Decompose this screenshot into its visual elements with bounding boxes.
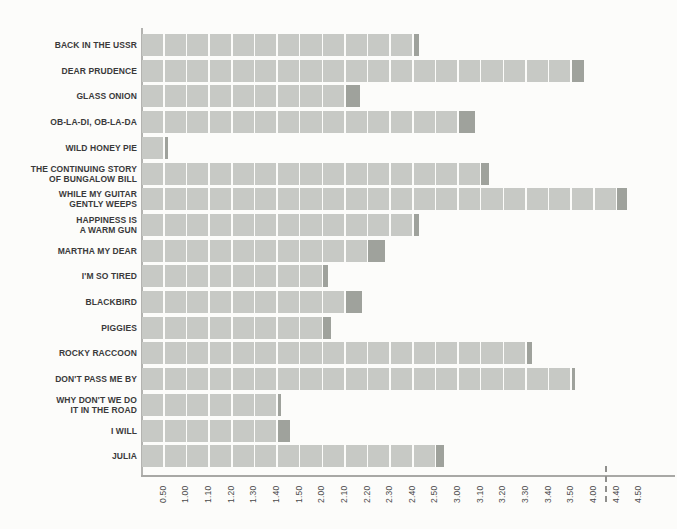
bar-block-10s xyxy=(255,60,276,82)
bar-block-10s xyxy=(346,342,367,364)
song-duration-bar xyxy=(142,445,444,467)
bar-block-10s xyxy=(527,60,548,82)
bar-block-10s xyxy=(300,214,321,236)
bar-block-10s xyxy=(210,163,231,185)
bar-block-10s xyxy=(368,214,389,236)
bar-block-10s xyxy=(391,60,412,82)
x-tick-label: 1.20 xyxy=(226,486,236,503)
song-label: I'M SO TIRED xyxy=(0,265,137,287)
song-duration-bar xyxy=(142,420,290,442)
bar-end-cap xyxy=(323,265,328,287)
bar-block-10s xyxy=(210,342,231,364)
bar-block-10s xyxy=(414,368,435,390)
bar-block-10s xyxy=(300,34,321,56)
bar-block-10s xyxy=(391,163,412,185)
song-duration-bar xyxy=(142,188,627,210)
bar-block-10s xyxy=(187,111,208,133)
bar-block-10s xyxy=(278,317,299,339)
bar-block-10s xyxy=(436,111,457,133)
bar-block-10s xyxy=(527,188,548,210)
x-tick-label: 2.20 xyxy=(362,486,372,503)
bar-block-10s xyxy=(210,368,231,390)
bar-block-10s xyxy=(278,60,299,82)
song-duration-bar xyxy=(142,240,385,262)
song-label-line: PIGGIES xyxy=(101,323,137,333)
bar-block-10s xyxy=(142,291,163,313)
bar-block-10s xyxy=(481,188,502,210)
bar-block-10s xyxy=(255,34,276,56)
bar-block-10s xyxy=(368,445,389,467)
song-label-line: THE CONTINUING STORY xyxy=(31,164,137,174)
bar-block-10s xyxy=(233,368,254,390)
bar-block-10s xyxy=(233,60,254,82)
x-tick-label: 1.50 xyxy=(294,486,304,503)
x-tick-label: 3.20 xyxy=(497,486,507,503)
bar-block-10s xyxy=(278,111,299,133)
bar-block-10s xyxy=(233,214,254,236)
bar-block-10s xyxy=(165,111,186,133)
bar-block-10s xyxy=(414,188,435,210)
song-label: HAPPINESS ISA WARM GUN xyxy=(0,214,137,236)
bar-end-cap xyxy=(617,188,627,210)
bar-end-cap xyxy=(414,214,419,236)
song-label: DEAR PRUDENCE xyxy=(0,60,137,82)
bar-block-10s xyxy=(255,368,276,390)
song-label-line: GLASS ONION xyxy=(76,91,137,101)
bar-block-10s xyxy=(210,265,231,287)
bar-block-10s xyxy=(210,214,231,236)
bar-block-10s xyxy=(323,188,344,210)
bar-block-10s xyxy=(142,265,163,287)
bar-block-10s xyxy=(300,60,321,82)
bar-block-10s xyxy=(346,240,367,262)
bar-block-10s xyxy=(210,111,231,133)
bar-block-10s xyxy=(187,60,208,82)
bar-block-10s xyxy=(368,163,389,185)
song-duration-bar xyxy=(142,111,475,133)
bar-block-10s xyxy=(210,394,231,416)
bar-block-10s xyxy=(165,60,186,82)
bar-block-10s xyxy=(346,111,367,133)
bar-block-10s xyxy=(165,85,186,107)
x-tick-label: 1.10 xyxy=(203,486,213,503)
bar-block-10s xyxy=(233,265,254,287)
song-label: I WILL xyxy=(0,420,137,442)
bar-end-cap xyxy=(414,34,419,56)
bar-block-10s xyxy=(300,188,321,210)
bar-block-10s xyxy=(255,214,276,236)
bar-block-10s xyxy=(436,368,457,390)
bar-end-cap xyxy=(481,163,489,185)
bar-block-10s xyxy=(278,342,299,364)
bar-block-10s xyxy=(165,163,186,185)
bar-block-10s xyxy=(504,188,525,210)
bar-block-10s xyxy=(368,368,389,390)
bar-block-10s xyxy=(233,291,254,313)
bar-block-10s xyxy=(323,34,344,56)
bar-block-10s xyxy=(233,34,254,56)
bar-block-10s xyxy=(142,368,163,390)
bar-block-10s xyxy=(414,445,435,467)
song-label-line: ROCKY RACCOON xyxy=(59,348,137,358)
song-label-line: A WARM GUN xyxy=(80,225,137,235)
bar-block-10s xyxy=(323,214,344,236)
bar-block-10s xyxy=(142,137,163,159)
bar-block-10s xyxy=(187,368,208,390)
song-duration-bar xyxy=(142,137,168,159)
bar-block-10s xyxy=(210,60,231,82)
bar-block-10s xyxy=(255,265,276,287)
bar-block-10s xyxy=(210,317,231,339)
bar-block-10s xyxy=(210,420,231,442)
bar-block-10s xyxy=(255,394,276,416)
bar-block-10s xyxy=(278,163,299,185)
bar-block-10s xyxy=(233,111,254,133)
song-duration-bar xyxy=(142,85,360,107)
bar-block-10s xyxy=(255,163,276,185)
bar-block-10s xyxy=(210,85,231,107)
bar-block-10s xyxy=(549,188,570,210)
bar-block-10s xyxy=(346,214,367,236)
x-tick-label: 3.40 xyxy=(543,486,553,503)
bar-block-10s xyxy=(255,291,276,313)
x-tick-label: 4.50 xyxy=(633,486,643,503)
bar-block-10s xyxy=(165,368,186,390)
bar-block-10s xyxy=(142,214,163,236)
x-tick-label: 2.40 xyxy=(407,486,417,503)
